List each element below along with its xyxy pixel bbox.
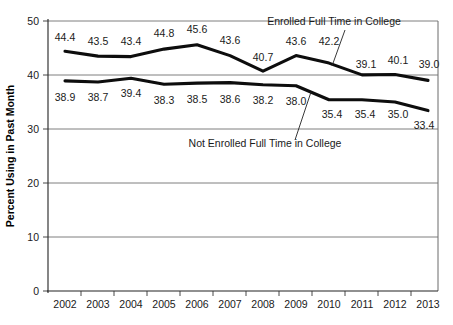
x-tick-label-2008: 2008 bbox=[251, 298, 275, 310]
x-tick-label-2009: 2009 bbox=[284, 298, 308, 310]
y-tick-label-40: 40 bbox=[27, 69, 39, 81]
y-tick-label-50: 50 bbox=[27, 15, 39, 27]
value-label-enrolled-2006: 45.6 bbox=[187, 23, 208, 35]
series-line-not-enrolled-full-time bbox=[65, 78, 428, 110]
y-tick-label-0: 0 bbox=[33, 285, 39, 297]
line-chart: 50 40 30 20 10 0 Percent Using in Past M… bbox=[0, 0, 453, 325]
value-label-enrolled-2007: 43.6 bbox=[220, 34, 241, 46]
y-tick-label-30: 30 bbox=[27, 123, 39, 135]
x-tick-label-2010: 2010 bbox=[317, 298, 341, 310]
value-label-enrolled-2009: 43.6 bbox=[286, 35, 307, 47]
value-label-enrolled-2002: 44.4 bbox=[55, 31, 76, 43]
annotation-not-enrolled-full-time: Not Enrolled Full Time in College bbox=[189, 137, 342, 149]
value-label-enrolled-2012: 40.1 bbox=[388, 54, 409, 66]
value-label-not-enrolled-2008: 38.2 bbox=[253, 94, 274, 106]
value-label-not-enrolled-2003: 38.7 bbox=[88, 91, 109, 103]
value-label-not-enrolled-2013: 33.4 bbox=[414, 119, 435, 131]
value-label-not-enrolled-2004: 39.4 bbox=[121, 87, 142, 99]
value-label-not-enrolled-2007: 38.6 bbox=[220, 93, 241, 105]
value-label-enrolled-2013: 39.0 bbox=[419, 58, 440, 70]
value-label-not-enrolled-2012: 35.0 bbox=[388, 108, 409, 120]
x-tick-label-2012: 2012 bbox=[383, 298, 407, 310]
value-label-enrolled-2003: 43.5 bbox=[88, 35, 109, 47]
y-axis-title: Percent Using in Past Month bbox=[4, 85, 16, 227]
value-label-enrolled-2004: 43.4 bbox=[121, 35, 142, 47]
x-tick-label-2003: 2003 bbox=[86, 298, 110, 310]
chart-canvas: 50 40 30 20 10 0 Percent Using in Past M… bbox=[0, 0, 453, 325]
annotation-enrolled-full-time: Enrolled Full Time in College bbox=[267, 15, 401, 27]
value-label-not-enrolled-2005: 38.3 bbox=[154, 94, 175, 106]
x-tick-label-2007: 2007 bbox=[218, 298, 242, 310]
value-label-not-enrolled-2009: 38.0 bbox=[286, 95, 307, 107]
value-label-enrolled-2010: 42.2 bbox=[319, 35, 340, 47]
x-tick-label-2013: 2013 bbox=[416, 298, 440, 310]
y-tick-label-20: 20 bbox=[27, 177, 39, 189]
value-label-not-enrolled-2011: 35.4 bbox=[355, 108, 376, 120]
x-tick-label-2006: 2006 bbox=[185, 298, 209, 310]
value-label-not-enrolled-2002: 38.9 bbox=[55, 91, 76, 103]
x-tick-label-2002: 2002 bbox=[53, 298, 77, 310]
x-tick-label-2004: 2004 bbox=[119, 298, 143, 310]
value-label-not-enrolled-2006: 38.5 bbox=[187, 93, 208, 105]
x-tick-label-2005: 2005 bbox=[152, 298, 176, 310]
value-label-enrolled-2008: 40.7 bbox=[253, 51, 274, 63]
value-label-enrolled-2011: 39.1 bbox=[356, 58, 377, 70]
value-label-not-enrolled-2010: 35.4 bbox=[322, 108, 343, 120]
x-tick-label-2011: 2011 bbox=[351, 298, 374, 310]
y-tick-label-10: 10 bbox=[27, 231, 39, 243]
value-label-enrolled-2005: 44.8 bbox=[154, 27, 175, 39]
